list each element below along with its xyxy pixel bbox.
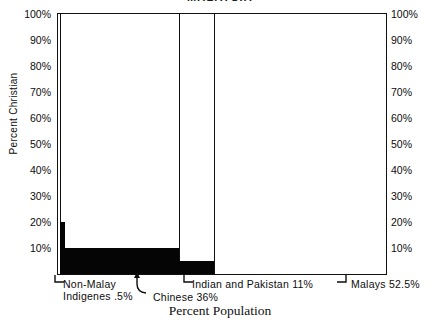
y-tick-right-70: 70% — [391, 87, 412, 97]
y-tick-right-100: 100% — [391, 9, 418, 19]
x-axis-title: Percent Population — [0, 303, 440, 319]
y-axis-title: Percent Christian — [8, 54, 19, 174]
callout-non-malay-indigenes: Non-Malay Indigenes .5% — [63, 278, 133, 302]
y-tick-left-100: 100% — [24, 9, 51, 19]
callout-indian-and-pakistan-line1: Indian and Pakistan 11% — [192, 278, 313, 290]
y-tick-right-20: 20% — [391, 217, 412, 227]
y-tick-right-10: 10% — [391, 243, 412, 253]
leader-malays — [336, 274, 350, 286]
y-tick-right-80: 80% — [391, 61, 412, 71]
leader-chinese — [131, 272, 153, 296]
y-tick-left-80: 80% — [30, 61, 51, 71]
callout-chinese: Chinese 36% — [153, 291, 218, 303]
callout-non-malay-indigenes-line1: Non-Malay — [63, 278, 116, 290]
y-tick-right-60: 60% — [391, 113, 412, 123]
callout-non-malay-indigenes-line2: Indigenes .5% — [63, 290, 133, 302]
y-tick-right-40: 40% — [391, 165, 412, 175]
y-tick-left-40: 40% — [30, 165, 51, 175]
y-tick-left-30: 30% — [30, 191, 51, 201]
y-tick-left-60: 60% — [30, 113, 51, 123]
bar-chinese — [65, 248, 179, 274]
callout-malays: Malays 52.5% — [351, 278, 420, 290]
y-tick-left-70: 70% — [30, 87, 51, 97]
segment-divider-chinese-indian — [179, 14, 180, 274]
callout-malays-line1: Malays 52.5% — [351, 278, 420, 290]
y-tick-right-90: 90% — [391, 35, 412, 45]
callout-chinese-line1: Chinese 36% — [153, 291, 218, 303]
y-tick-left-20: 20% — [30, 217, 51, 227]
y-tick-right-50: 50% — [391, 139, 412, 149]
y-tick-left-90: 90% — [30, 35, 51, 45]
callout-indian-and-pakistan: Indian and Pakistan 11% — [192, 278, 313, 290]
segment-divider-indian-malays — [214, 14, 215, 274]
y-tick-left-50: 50% — [30, 139, 51, 149]
y-tick-left-10: 10% — [30, 243, 51, 253]
y-tick-right-30: 30% — [391, 191, 412, 201]
bar-indian-and-pakistan — [179, 261, 214, 274]
chart-title: MALAYSIA — [0, 0, 440, 2]
plot-area — [57, 13, 387, 275]
